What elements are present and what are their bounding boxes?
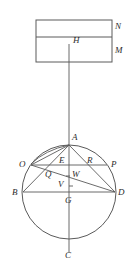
point-label-a: A [72,133,78,142]
point-label-b: B [12,188,18,197]
point-label-g: G [65,196,72,205]
point-label-h: H [73,36,80,45]
figure-canvas [0,0,138,269]
geometric-figure: ABCDOPERQWVGHNM [0,0,138,269]
point-label-e: E [59,156,65,165]
point-label-o: O [19,160,26,169]
point-label-m: M [115,46,123,55]
point-label-w: W [72,170,80,179]
point-label-q: Q [45,170,52,179]
point-label-v: V [58,180,64,189]
point-label-p: P [111,160,117,169]
point-label-c: C [65,251,71,260]
segment-group [23,44,115,253]
point-label-d: D [118,188,125,197]
point-label-r: R [87,156,93,165]
point-label-n: N [115,22,121,31]
